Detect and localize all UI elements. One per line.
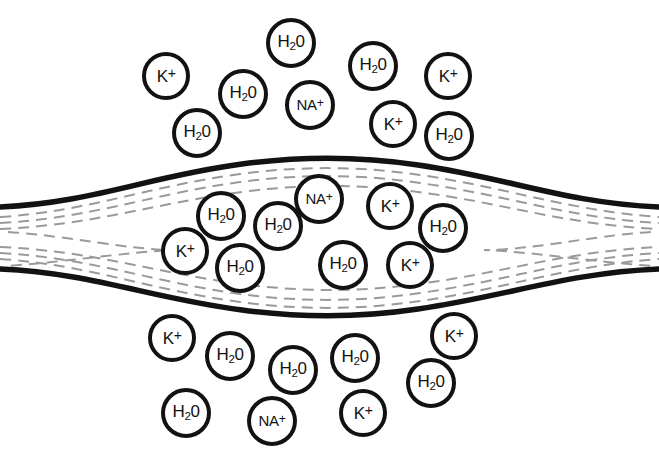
particle-potassium: K+ xyxy=(430,312,478,360)
particle-label: H20 xyxy=(417,373,444,393)
particle-label: K+ xyxy=(381,197,400,215)
particle-water: H20 xyxy=(205,331,255,381)
particle-label: H20 xyxy=(277,33,304,53)
particle-potassium: K+ xyxy=(161,227,209,275)
particle-label: H20 xyxy=(216,346,243,366)
particle-water: H20 xyxy=(318,240,368,290)
particle-label: H20 xyxy=(207,206,234,226)
particle-potassium: K+ xyxy=(424,52,472,100)
particle-label: H20 xyxy=(279,360,306,380)
particle-label: K+ xyxy=(176,242,195,260)
particle-label: H20 xyxy=(435,126,462,146)
membrane-shape xyxy=(0,0,659,464)
particle-water: H20 xyxy=(215,243,265,293)
particle-label: K+ xyxy=(401,256,420,274)
particle-label: K+ xyxy=(445,327,464,345)
particle-water: H20 xyxy=(406,358,456,408)
particle-label: H20 xyxy=(359,56,386,76)
particle-potassium: K+ xyxy=(339,389,387,437)
particle-potassium: K+ xyxy=(386,241,434,289)
particle-potassium: K+ xyxy=(148,314,196,362)
particle-potassium: K+ xyxy=(142,52,190,100)
particle-water: H20 xyxy=(268,345,318,395)
particle-sodium: NA+ xyxy=(247,396,297,446)
particle-label: H20 xyxy=(429,218,456,238)
particle-potassium: K+ xyxy=(369,100,417,148)
particle-label: H20 xyxy=(341,348,368,368)
particle-potassium: K+ xyxy=(366,182,414,230)
particle-label: NA+ xyxy=(297,97,324,112)
particle-label: H20 xyxy=(183,123,210,143)
particle-water: H20 xyxy=(348,41,398,91)
particle-label: H20 xyxy=(264,216,291,236)
particle-water: H20 xyxy=(266,18,316,68)
particle-water: H20 xyxy=(161,388,211,438)
particle-label: H20 xyxy=(229,84,256,104)
particle-label: K+ xyxy=(163,329,182,347)
particle-label: K+ xyxy=(157,67,176,85)
particle-label: K+ xyxy=(354,404,373,422)
particle-label: K+ xyxy=(384,115,403,133)
particle-label: NA+ xyxy=(259,413,286,428)
particle-label: NA+ xyxy=(306,191,333,206)
particle-water: H20 xyxy=(418,203,468,253)
particle-sodium: NA+ xyxy=(285,80,335,130)
particle-water: H20 xyxy=(218,69,268,119)
particle-water: H20 xyxy=(424,111,474,161)
particle-water: H20 xyxy=(172,108,222,158)
particle-water: H20 xyxy=(196,191,246,241)
particle-label: H20 xyxy=(226,258,253,278)
particle-water: H20 xyxy=(253,201,303,251)
cell-membrane-osmosis-diagram: K+H20H20K+H20NA+K+H20H20NA+K+H20H20H20K+… xyxy=(0,0,659,464)
particle-water: H20 xyxy=(330,333,380,383)
particle-label: K+ xyxy=(439,67,458,85)
particle-label: H20 xyxy=(329,255,356,275)
particle-label: H20 xyxy=(172,403,199,423)
